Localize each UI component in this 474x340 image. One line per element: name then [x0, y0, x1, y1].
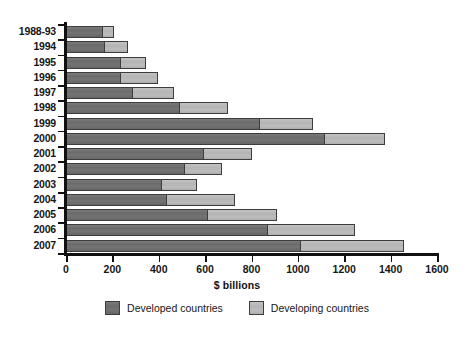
bar-segment-developing	[207, 210, 276, 220]
bar-segment-developed	[67, 119, 259, 129]
bar-row	[66, 146, 437, 161]
bar-segment-developed	[67, 88, 132, 98]
y-axis-tick	[58, 24, 65, 26]
x-axis-label: 800	[243, 263, 261, 275]
y-axis-label: 2002	[0, 161, 56, 176]
bar-row	[66, 177, 437, 192]
bar-segment-developing	[120, 73, 157, 83]
y-axis-label-text: 1997	[0, 85, 56, 100]
stacked-bar	[66, 41, 128, 53]
bar-segment-developed	[67, 103, 179, 113]
y-axis-label: 2007	[0, 238, 56, 253]
bar-segment-developing	[102, 27, 114, 37]
x-axis-tick	[344, 256, 346, 262]
y-axis-tick	[58, 100, 65, 102]
bar-segment-developing	[166, 195, 234, 205]
y-axis-label-text: 1995	[0, 55, 56, 70]
y-axis-label-text: 2007	[0, 238, 56, 253]
y-axis-tick	[58, 222, 65, 224]
x-axis-tick	[205, 256, 207, 262]
stacked-bar	[66, 179, 197, 191]
bar-segment-developed	[67, 149, 203, 159]
bar-segment-developed	[67, 195, 166, 205]
x-axis-tick	[298, 256, 300, 262]
y-axis-label-text: 2001	[0, 146, 56, 161]
y-axis-label: 2003	[0, 177, 56, 192]
bar-segment-developed	[67, 164, 184, 174]
y-axis-tick	[58, 177, 65, 179]
x-axis-label: 1400	[379, 263, 402, 275]
y-axis-label-text: 1988-93	[0, 24, 56, 39]
bar-segment-developing	[324, 134, 384, 144]
y-axis-tick	[58, 253, 65, 255]
y-axis-label: 1994	[0, 39, 56, 54]
stacked-bar	[66, 209, 277, 221]
legend-item-developing: Developing countries	[249, 301, 369, 315]
bar-row	[66, 238, 437, 253]
stacked-bar-chart: 1988-93199419951996199719981999200020012…	[0, 0, 474, 340]
bar-segment-developed	[67, 42, 104, 52]
y-axis-label: 2001	[0, 146, 56, 161]
y-axis-label-text: 2002	[0, 161, 56, 176]
bar-row	[66, 207, 437, 222]
y-axis-tick	[58, 39, 65, 41]
stacked-bar	[66, 133, 385, 145]
y-axis-label: 2000	[0, 131, 56, 146]
bar-segment-developed	[67, 73, 120, 83]
y-axis-tick	[58, 55, 65, 57]
stacked-bar	[66, 72, 158, 84]
bar-segment-developed	[67, 210, 207, 220]
bar-segment-developed	[67, 58, 120, 68]
bar-segment-developing	[267, 225, 354, 235]
y-axis-label: 1996	[0, 70, 56, 85]
y-axis-label-text: 1998	[0, 100, 56, 115]
bar-row	[66, 131, 437, 146]
legend-swatch-developed-icon	[105, 301, 120, 315]
legend-label-developing: Developing countries	[271, 302, 369, 314]
y-axis-label: 2006	[0, 222, 56, 237]
x-axis-label: 1200	[333, 263, 356, 275]
x-axis-label: 400	[150, 263, 168, 275]
y-axis-label-text: 2000	[0, 131, 56, 146]
y-axis-label-text: 1994	[0, 39, 56, 54]
y-axis-label: 1998	[0, 100, 56, 115]
bar-segment-developed	[67, 180, 161, 190]
bar-segment-developing	[179, 103, 227, 113]
bar-segment-developing	[104, 42, 127, 52]
x-axis-tick	[112, 256, 114, 262]
stacked-bar	[66, 148, 252, 160]
y-axis-tick	[58, 161, 65, 163]
bar-segment-developing	[203, 149, 251, 159]
stacked-bar	[66, 118, 313, 130]
bar-row	[66, 39, 437, 54]
stacked-bar	[66, 194, 235, 206]
y-axis-tick	[58, 146, 65, 148]
bar-segment-developing	[132, 88, 173, 98]
y-axis-label-text: 1996	[0, 70, 56, 85]
stacked-bar	[66, 224, 355, 236]
stacked-bar	[66, 57, 146, 69]
bar-segment-developing	[259, 119, 312, 129]
y-axis-tick	[58, 131, 65, 133]
bar-segment-developing	[161, 180, 196, 190]
x-axis-tick	[159, 256, 161, 262]
bar-row	[66, 161, 437, 176]
x-axis-tick	[391, 256, 393, 262]
stacked-bar	[66, 102, 228, 114]
bar-segment-developed	[67, 134, 324, 144]
x-axis-label: 1600	[425, 263, 448, 275]
y-axis-label: 2005	[0, 207, 56, 222]
y-axis-label-text: 2004	[0, 192, 56, 207]
chart-legend: Developed countries Developing countries	[0, 301, 474, 315]
x-axis-tick	[252, 256, 254, 262]
bar-segment-developing	[184, 164, 221, 174]
y-axis-label: 1999	[0, 116, 56, 131]
x-axis-label: 600	[196, 263, 214, 275]
plot-area	[66, 24, 437, 253]
bar-row	[66, 70, 437, 85]
bar-row	[66, 100, 437, 115]
x-axis-label: 200	[104, 263, 122, 275]
y-axis-label: 2004	[0, 192, 56, 207]
y-axis-tick	[58, 70, 65, 72]
bar-row	[66, 55, 437, 70]
